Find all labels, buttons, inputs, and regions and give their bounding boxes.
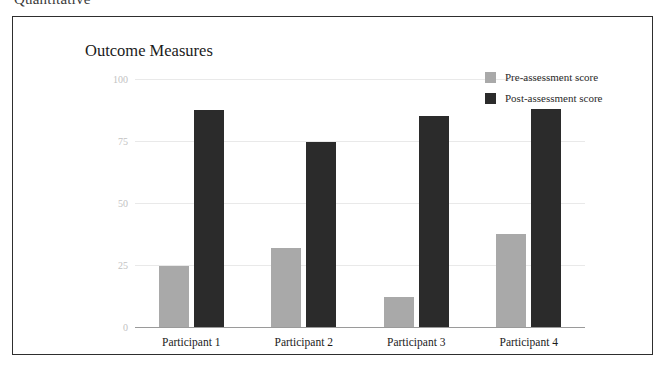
bar-group: Participant 4 — [473, 79, 586, 327]
legend-swatch-icon — [485, 93, 496, 104]
document-heading: Quantitative — [14, 0, 91, 8]
legend-label: Post-assessment score — [505, 92, 602, 104]
legend-item[interactable]: Pre-assessment score — [485, 71, 602, 83]
x-tick-label: Participant 2 — [275, 336, 333, 348]
bar-post[interactable] — [194, 110, 224, 327]
y-tick-label: 25 — [118, 260, 128, 271]
bar-group: Participant 2 — [248, 79, 361, 327]
legend-label: Pre-assessment score — [505, 71, 598, 83]
x-tick-label: Participant 4 — [500, 336, 558, 348]
bar-post[interactable] — [531, 109, 561, 327]
bar-pre[interactable] — [271, 248, 301, 327]
y-tick-label: 50 — [118, 198, 128, 209]
x-tick-label: Participant 1 — [162, 336, 220, 348]
x-tick-label: Participant 3 — [387, 336, 445, 348]
bar-post[interactable] — [306, 142, 336, 327]
legend-item[interactable]: Post-assessment score — [485, 92, 602, 104]
bar-group: Participant 3 — [360, 79, 473, 327]
gridline-0 — [135, 327, 585, 328]
y-tick-label: 75 — [118, 136, 128, 147]
chart-legend: Pre-assessment scorePost-assessment scor… — [485, 71, 602, 113]
y-tick-label: 100 — [113, 74, 128, 85]
bar-groups: Participant 1Participant 2Participant 3P… — [135, 79, 585, 327]
chart-title: Outcome Measures — [85, 41, 213, 61]
bar-post[interactable] — [419, 116, 449, 327]
figure-frame: Outcome Measures 1007550250 Participant … — [12, 16, 653, 355]
plot-area: 1007550250 Participant 1Participant 2Par… — [135, 79, 585, 327]
y-tick-label: 0 — [123, 322, 128, 333]
bar-pre[interactable] — [496, 234, 526, 327]
bar-pre[interactable] — [159, 266, 189, 327]
bar-group: Participant 1 — [135, 79, 248, 327]
bar-pre[interactable] — [384, 297, 414, 327]
legend-swatch-icon — [485, 72, 496, 83]
